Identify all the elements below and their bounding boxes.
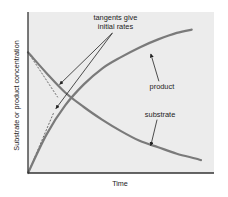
plot-background	[28, 12, 214, 173]
annotation-tangents: tangents giveinitial rates	[93, 13, 137, 31]
chart: tangents giveinitial ratesproductsubstra…	[0, 0, 228, 197]
y-axis-label: Substrate or product concentration	[12, 40, 21, 150]
annotation-line: initial rates	[98, 22, 134, 31]
annotation-substrate: substrate	[145, 110, 175, 119]
annotation-line: tangents give	[93, 13, 137, 22]
x-axis-label: Time	[112, 179, 128, 188]
annotation-product: product	[150, 82, 175, 91]
